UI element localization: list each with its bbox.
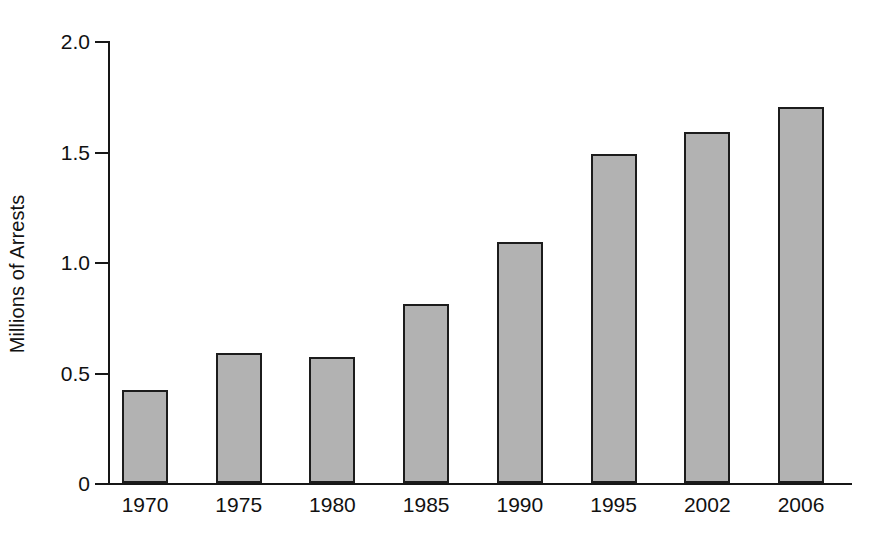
x-axis-tick-label: 1975 [215, 494, 262, 515]
y-axis-tick-label: 1.0 [61, 252, 90, 273]
bar-chart: Millions of Arrests 00.51.01.52.0 197019… [0, 0, 874, 548]
y-axis-tick-label: 2.0 [61, 31, 90, 52]
bar [497, 242, 543, 483]
x-axis-line [108, 483, 852, 485]
bar [591, 154, 637, 483]
y-axis-title: Millions of Arrests [0, 0, 34, 548]
bar [216, 353, 262, 483]
x-axis-tick-label: 2006 [778, 494, 825, 515]
plot-area: 00.51.01.52.0 [108, 41, 850, 483]
bar [403, 304, 449, 483]
y-axis-tick-mark [95, 373, 108, 375]
x-axis-tick-label: 1980 [309, 494, 356, 515]
bar [778, 107, 824, 483]
y-axis-tick-mark [95, 152, 108, 154]
x-axis-tick-label: 1995 [590, 494, 637, 515]
y-axis-tick-label: 0 [78, 473, 90, 494]
x-axis-tick-label: 1970 [122, 494, 169, 515]
x-axis-tick-label: 1990 [496, 494, 543, 515]
bar [309, 357, 355, 483]
bar [684, 132, 730, 483]
x-axis-tick-label: 2002 [684, 494, 731, 515]
y-axis-tick-mark [95, 262, 108, 264]
y-axis-tick-label: 1.5 [61, 141, 90, 162]
x-axis-tick-label: 1985 [403, 494, 450, 515]
y-axis-tick-mark [95, 41, 108, 43]
y-axis-tick-mark [95, 483, 108, 485]
bar [122, 390, 168, 483]
y-axis-tick-label: 0.5 [61, 362, 90, 383]
